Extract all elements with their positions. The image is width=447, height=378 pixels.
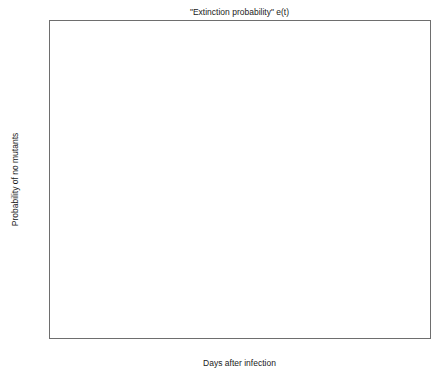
figure-background xyxy=(0,0,447,378)
chart-title: "Extinction probability" e(t) xyxy=(190,7,289,17)
chart-figure: "Extinction probability" e(t) Days after… xyxy=(0,0,447,378)
y-axis-label: Probability of no mutants xyxy=(10,133,20,227)
x-axis-label: Days after infection xyxy=(203,358,276,368)
extinction-probability-chart: "Extinction probability" e(t) Days after… xyxy=(0,0,447,378)
